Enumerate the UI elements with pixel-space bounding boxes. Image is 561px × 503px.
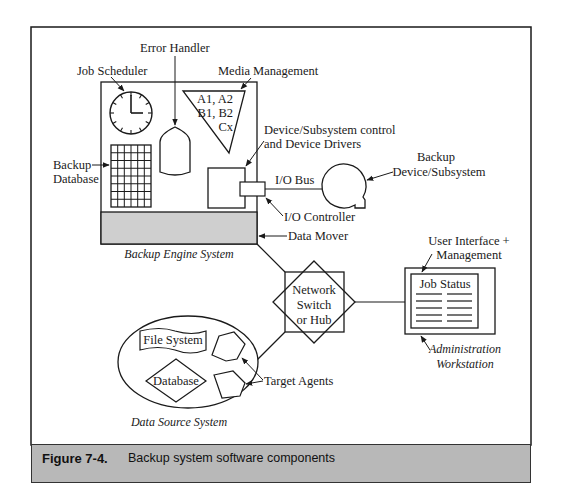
file-system-label: File System	[143, 333, 203, 347]
data-mover-area	[101, 212, 257, 244]
io-controller-box	[240, 182, 265, 196]
io-bus-label: I/O Bus	[275, 173, 314, 187]
error-handler-label: Error Handler	[140, 41, 211, 55]
error-handler-icon	[160, 127, 190, 175]
figure-caption: Figure 7-4. Backup system software compo…	[31, 444, 531, 483]
network-switch-label-3: or Hub	[296, 313, 331, 327]
workstation-title-2: Workstation	[436, 357, 494, 371]
backup-database-label-2: Database	[53, 172, 99, 186]
io-controller-label: I/O Controller	[284, 210, 356, 224]
database-label: Database	[153, 374, 199, 388]
device-control-label-1: Device/Subsystem control	[264, 123, 396, 137]
media-label-2: B1, B2	[198, 106, 233, 120]
figure-caption-text: Backup system software components	[128, 451, 335, 465]
network-switch-label-1: Network	[292, 283, 336, 297]
data-source-title: Data Source System	[130, 415, 228, 429]
backup-device-label-2: Device/Subsystem	[392, 165, 485, 179]
media-label-1: A1, A2	[197, 92, 233, 106]
media-label-3: Cx	[218, 120, 233, 134]
workstation-title-1: Administration	[428, 342, 501, 356]
data-mover-label: Data Mover	[288, 229, 349, 243]
backup-device-label-1: Backup	[417, 150, 455, 164]
job-status-title: Job Status	[419, 277, 470, 291]
target-agents-label: Target Agents	[264, 374, 334, 388]
user-interface-label-1: User Interface +	[428, 234, 509, 248]
user-interface-label-2: Management	[436, 248, 502, 262]
backup-device-icon	[322, 164, 366, 208]
engine-title: Backup Engine System	[124, 247, 234, 261]
backup-database-label-1: Backup	[53, 158, 91, 172]
network-switch-label-2: Switch	[297, 298, 332, 312]
backup-system-diagram: Backup Engine System Job Scheduler	[0, 0, 561, 503]
media-management-label: Media Management	[218, 64, 319, 78]
device-control-label-2: and Device Drivers	[264, 137, 361, 151]
job-scheduler-label: Job Scheduler	[77, 64, 148, 78]
figure-number: Figure 7-4.	[42, 451, 128, 466]
